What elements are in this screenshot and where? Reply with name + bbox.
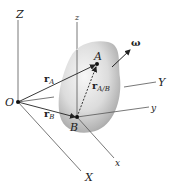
z-axis-label: z <box>74 13 80 22</box>
rigid-body <box>59 41 121 132</box>
point-O <box>16 100 20 104</box>
X-axis-label: X <box>84 171 94 184</box>
Z-axis-label: Z <box>15 8 24 21</box>
r-A-label: rA <box>44 73 54 86</box>
x-axis-label: x <box>115 158 120 168</box>
origin-O-label: O <box>5 96 14 109</box>
point-A-label: A <box>93 50 102 63</box>
r-B-label: rB <box>44 108 54 121</box>
rigid-body-kinematics-diagram: Z X Y O z y x A B rA rB rA/B ω <box>0 0 170 184</box>
omega-label: ω <box>131 37 141 48</box>
y-axis-label: y <box>150 103 157 113</box>
point-B-label: B <box>69 121 78 134</box>
Y-axis-far <box>124 82 156 87</box>
Y-axis-label: Y <box>158 76 167 89</box>
point-B <box>75 115 79 119</box>
